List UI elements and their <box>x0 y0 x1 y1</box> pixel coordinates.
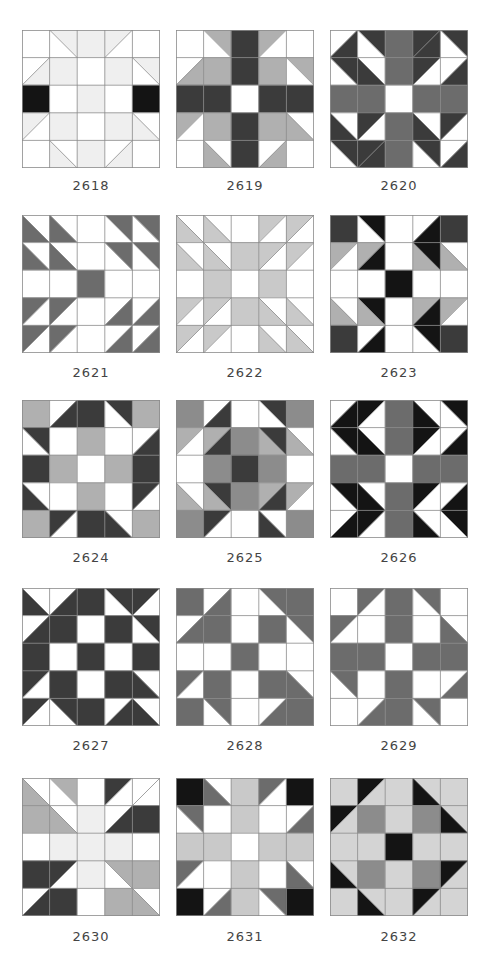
block-number-label: 2630 <box>22 929 160 944</box>
block-number-label: 2628 <box>176 738 314 753</box>
quilt-block-2630 <box>22 778 160 916</box>
quilt-block-diagram <box>330 778 468 916</box>
block-number-label: 2618 <box>22 178 160 193</box>
block-number-label: 2625 <box>176 550 314 565</box>
block-number-label: 2631 <box>176 929 314 944</box>
quilt-block-2627 <box>22 588 160 726</box>
block-number-label: 2626 <box>330 550 468 565</box>
quilt-block-2622 <box>176 215 314 353</box>
quilt-block-diagram <box>330 588 468 726</box>
quilt-block-2618 <box>22 30 160 168</box>
block-number-label: 2621 <box>22 365 160 380</box>
block-number-label: 2627 <box>22 738 160 753</box>
quilt-block-diagram <box>176 778 314 916</box>
quilt-block-diagram <box>330 400 468 538</box>
quilt-block-diagram <box>330 215 468 353</box>
quilt-block-2624 <box>22 400 160 538</box>
block-number-label: 2629 <box>330 738 468 753</box>
quilt-block-2623 <box>330 215 468 353</box>
quilt-block-diagram <box>176 30 314 168</box>
block-number-label: 2632 <box>330 929 468 944</box>
block-number-label: 2620 <box>330 178 468 193</box>
quilt-block-2625 <box>176 400 314 538</box>
quilt-block-diagram <box>22 215 160 353</box>
quilt-block-2631 <box>176 778 314 916</box>
block-number-label: 2623 <box>330 365 468 380</box>
block-number-label: 2622 <box>176 365 314 380</box>
quilt-block-diagram <box>22 778 160 916</box>
quilt-block-diagram <box>22 400 160 538</box>
quilt-block-2619 <box>176 30 314 168</box>
quilt-block-2632 <box>330 778 468 916</box>
quilt-block-diagram <box>176 588 314 726</box>
block-number-label: 2619 <box>176 178 314 193</box>
quilt-block-2626 <box>330 400 468 538</box>
quilt-block-diagram <box>176 400 314 538</box>
block-number-label: 2624 <box>22 550 160 565</box>
quilt-block-diagram <box>22 588 160 726</box>
quilt-block-2629 <box>330 588 468 726</box>
quilt-block-diagram <box>176 215 314 353</box>
quilt-block-2621 <box>22 215 160 353</box>
quilt-block-diagram <box>330 30 468 168</box>
quilt-block-diagram <box>22 30 160 168</box>
quilt-block-2620 <box>330 30 468 168</box>
quilt-block-2628 <box>176 588 314 726</box>
